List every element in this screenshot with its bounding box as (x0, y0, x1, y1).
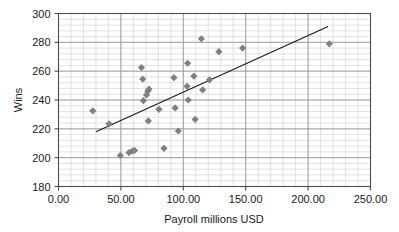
y-tick-label: 220 (32, 123, 50, 135)
x-tick-label: 150.00 (229, 193, 263, 205)
x-tick-label: 100.00 (166, 193, 200, 205)
y-tick-label: 260 (32, 65, 50, 77)
x-tick-label: 250.00 (354, 193, 388, 205)
y-tick-label: 240 (32, 94, 50, 106)
y-tick-label: 180 (32, 181, 50, 193)
y-tick-label: 280 (32, 36, 50, 48)
chart-canvas: 0.0050.00100.00150.00200.00250.00 180200… (0, 0, 399, 232)
x-tick-label: 0.00 (48, 193, 69, 205)
y-tick-label: 200 (32, 152, 50, 164)
y-tick-label: 300 (32, 8, 50, 20)
scatter-chart: 0.0050.00100.00150.00200.00250.00 180200… (0, 0, 399, 232)
x-tick-label: 200.00 (291, 193, 325, 205)
x-axis-title: Payroll millions USD (164, 213, 264, 225)
y-axis-title: Wins (12, 87, 24, 112)
x-tick-label: 50.00 (107, 193, 135, 205)
